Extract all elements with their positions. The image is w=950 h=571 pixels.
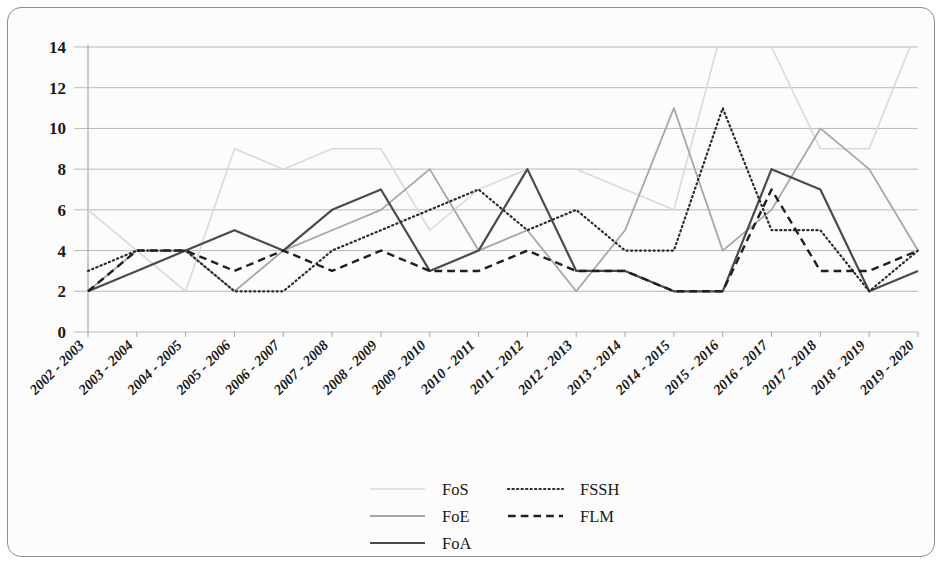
x-axis-ticks: [88, 332, 918, 337]
series-line-foe: [88, 108, 918, 291]
series-group: [88, 27, 918, 292]
y-axis-tick-label: 4: [58, 242, 67, 261]
series-line-fssh: [88, 108, 918, 291]
y-gridlines: 02468101214: [49, 38, 918, 342]
legend-label-fssh: FSSH: [580, 480, 620, 499]
legend-label-fos: FoS: [442, 480, 469, 499]
y-axis-tick-label: 6: [58, 201, 67, 220]
y-axis-tick-label: 2: [58, 282, 67, 301]
chart-canvas: 024681012142002 - 20032003 - 20042004 - …: [0, 0, 950, 571]
legend-label-foe: FoE: [442, 507, 470, 526]
chart-legend: FoSFoEFoAFSSHFLM: [370, 480, 620, 553]
y-axis-tick-label: 8: [58, 160, 67, 179]
legend-label-foa: FoA: [442, 534, 471, 553]
legend-label-flm: FLM: [580, 507, 614, 526]
series-line-fos: [88, 27, 918, 292]
y-axis-tick-label: 14: [49, 38, 67, 57]
y-axis-tick-label: 0: [58, 323, 67, 342]
line-chart: 024681012142002 - 20032003 - 20042004 - …: [0, 0, 950, 571]
x-axis-tick-labels: 2002 - 20032003 - 20042004 - 20052005 - …: [26, 336, 918, 398]
y-axis-tick-label: 10: [49, 119, 66, 138]
y-axis-tick-label: 12: [49, 79, 66, 98]
